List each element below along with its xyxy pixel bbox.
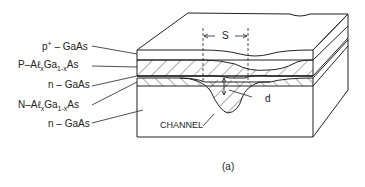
channel-label: CHANNEL [160,121,203,130]
device-cross-section-diagram [0,0,365,187]
label-n-algaas: N–AℓxGa1-xAs [18,100,79,112]
label-p-algaas: P–AℓxGa1-xAs [18,60,78,72]
dimension-d-label: d [265,94,271,104]
label-n-gaas-substrate: n – GaAs [48,119,90,129]
label-p-gaas: p+ – GaAs [42,40,88,52]
label-n-gaas-top: n – GaAs [48,80,90,90]
dimension-s-label: S [222,31,229,41]
figure-caption: (a) [222,162,234,172]
right-side-face [313,14,348,137]
layer-p-gaas [137,50,313,60]
top-surface [137,13,348,50]
